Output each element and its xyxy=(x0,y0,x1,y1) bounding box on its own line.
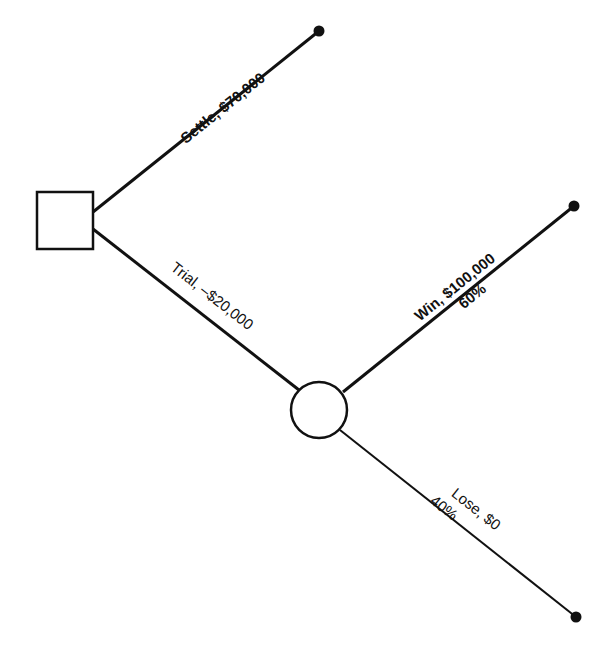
settle-label-group: Settle, $70,000 xyxy=(177,69,268,147)
lose-branch-line xyxy=(340,430,576,617)
lose-terminal-node xyxy=(571,612,582,623)
settle-terminal-node xyxy=(314,26,325,37)
decision-node-square xyxy=(37,192,93,249)
chance-node-circle xyxy=(291,382,347,438)
settle-branch-label: Settle, $70,000 xyxy=(177,69,268,147)
win-terminal-node xyxy=(569,201,580,212)
lose-label-group: Lose, $0 40% xyxy=(427,477,504,549)
trial-branch-line xyxy=(93,229,299,390)
decision-tree-diagram: Settle, $70,000 Trial, –$20,000 Win, $10… xyxy=(0,0,611,667)
win-branch-label: Win, $100,000 xyxy=(411,249,498,324)
